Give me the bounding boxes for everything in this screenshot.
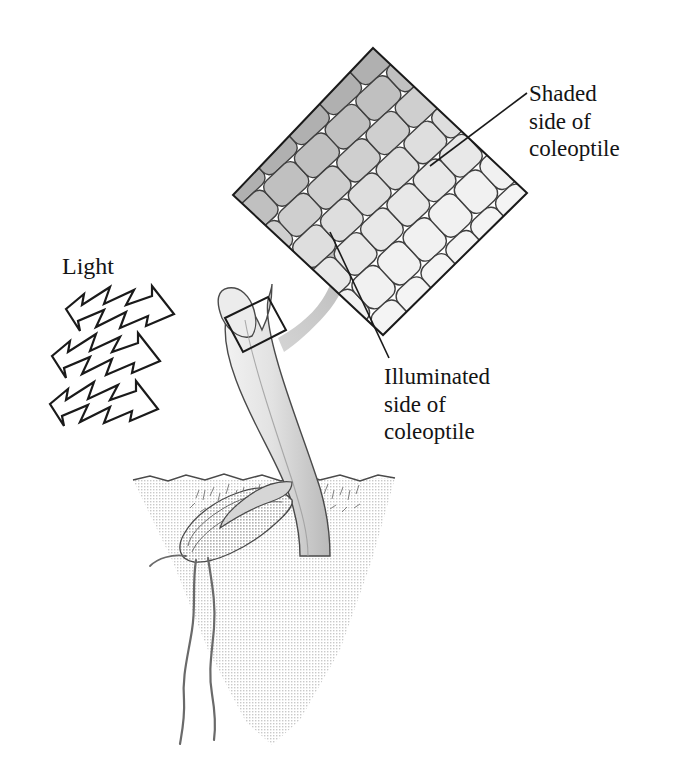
illuminated-side-label: Illuminated side of coleoptile: [384, 363, 490, 446]
light-arrow-2: [52, 333, 160, 378]
light-label: Light: [62, 252, 114, 281]
shaded-side-label: Shaded side of coleoptile: [529, 80, 620, 163]
phototropism-figure: Light Shaded side of coleoptile Illumina…: [0, 0, 674, 769]
light-arrow-1: [66, 286, 174, 331]
light-arrow-3: [50, 381, 158, 426]
light-arrows: [50, 286, 174, 426]
